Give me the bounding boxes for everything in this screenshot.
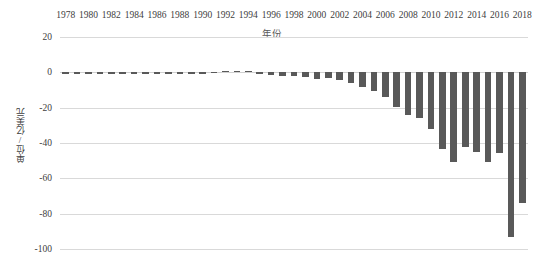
x-axis-tick-label: 2010	[421, 10, 440, 20]
y-axis-tick-label: -60	[39, 173, 52, 183]
bar	[256, 72, 263, 73]
bar	[462, 72, 469, 146]
bar	[188, 72, 195, 73]
x-axis-tick-label: 2012	[444, 10, 463, 20]
bar	[519, 72, 526, 203]
y-axis-tick-label: -40	[39, 138, 52, 148]
x-axis-tick-label: 1994	[239, 10, 258, 20]
bar	[371, 72, 378, 91]
bar	[211, 72, 218, 73]
bar	[325, 72, 332, 78]
x-axis-tick-labels: 1978198019821984198619881990199219941996…	[60, 10, 528, 24]
bar	[85, 72, 92, 73]
y-axis-tick-label: -80	[39, 209, 52, 219]
bar	[450, 72, 457, 162]
bar	[222, 71, 229, 72]
plot-area	[60, 37, 528, 249]
x-axis-tick-label: 2016	[490, 10, 509, 20]
x-axis-tick-label: 1992	[216, 10, 235, 20]
bar	[508, 72, 515, 236]
bar	[268, 72, 275, 75]
x-axis-tick-label: 2004	[353, 10, 372, 20]
x-axis-tick-label: 2000	[307, 10, 326, 20]
y-axis-tick-label: 0	[47, 67, 52, 77]
bar	[348, 72, 355, 83]
x-axis-tick-label: 1984	[125, 10, 144, 20]
x-axis-tick-label: 2002	[330, 10, 349, 20]
bar	[154, 72, 161, 73]
x-axis-tick-label: 1986	[148, 10, 167, 20]
x-axis-tick-label: 2008	[399, 10, 418, 20]
bar	[382, 72, 389, 97]
x-axis-tick-label: 1980	[79, 10, 98, 20]
bar	[314, 72, 321, 78]
bar	[74, 72, 81, 73]
x-axis-tick-label: 2018	[513, 10, 532, 20]
bar	[439, 72, 446, 149]
y-axis-tick-label: -20	[39, 103, 52, 113]
bar	[245, 71, 252, 72]
bar	[302, 72, 309, 77]
bar	[416, 72, 423, 118]
chart-page: 单位/亿美元 200-20-40-60-80-100 1978198019821…	[0, 0, 544, 265]
x-axis-tick-label: 1996	[262, 10, 281, 20]
bar	[97, 72, 104, 73]
x-axis-tick-label: 2014	[467, 10, 486, 20]
bar	[393, 72, 400, 106]
bar	[279, 72, 286, 76]
bar	[485, 72, 492, 162]
bar	[496, 72, 503, 152]
x-axis-tick-label: 1982	[102, 10, 121, 20]
bar	[291, 72, 298, 76]
bar	[405, 72, 412, 114]
x-axis-tick-label: 1990	[193, 10, 212, 20]
y-axis-tick-label: -100	[35, 244, 52, 254]
bar	[142, 72, 149, 74]
x-axis-tick-label: 1998	[285, 10, 304, 20]
bar	[336, 72, 343, 80]
bar	[131, 72, 138, 74]
x-axis-tick-label: 1988	[170, 10, 189, 20]
bar	[428, 72, 435, 129]
bar	[359, 72, 366, 87]
bar	[177, 72, 184, 74]
bar	[165, 72, 172, 73]
bar	[119, 72, 126, 73]
bar	[234, 71, 241, 73]
x-axis-tick-label: 1978	[56, 10, 75, 20]
bar-series	[60, 37, 528, 249]
gridline	[60, 249, 528, 250]
bar	[62, 72, 69, 73]
x-axis-tick-label: 2006	[376, 10, 395, 20]
bar	[108, 72, 115, 73]
bar	[473, 72, 480, 152]
bar	[199, 72, 206, 73]
